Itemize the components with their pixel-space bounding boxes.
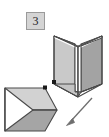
arrow-shaft (71, 98, 92, 121)
prism-vertex-marker-icon (52, 80, 56, 84)
unfold-arrow-icon (67, 98, 93, 126)
arrow-head (67, 119, 75, 126)
net-shape (5, 86, 57, 132)
prism-shape (52, 36, 102, 97)
diagram-canvas: 3 (0, 0, 109, 137)
geometry-diagram (0, 0, 109, 137)
net-vertex-marker-icon (43, 86, 47, 90)
